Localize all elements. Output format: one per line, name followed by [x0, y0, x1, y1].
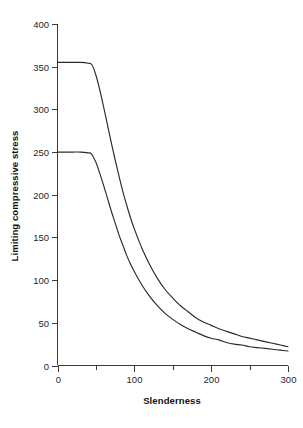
- y-tick-label: 250: [33, 147, 49, 158]
- data-curve-lower: [58, 152, 289, 351]
- y-axis-title: Limiting compressive stress: [9, 130, 20, 261]
- x-tick-label: 0: [56, 374, 61, 385]
- x-tick-label: 300: [281, 374, 297, 385]
- x-tick-label: 100: [127, 374, 143, 385]
- chart-figure: 050100150200250300350400 0100200300 Slen…: [0, 0, 303, 428]
- data-series-group: [58, 62, 289, 351]
- y-axis-ticks: [52, 25, 58, 367]
- y-tick-label: 100: [33, 275, 49, 286]
- y-tick-label: 350: [33, 62, 49, 73]
- y-tick-label: 0: [44, 361, 49, 372]
- y-axis-tick-labels: 050100150200250300350400: [33, 19, 49, 372]
- y-tick-label: 400: [33, 19, 49, 30]
- x-axis-minor-ticks: [97, 366, 251, 370]
- y-tick-label: 150: [33, 232, 49, 243]
- y-tick-label: 50: [38, 318, 49, 329]
- x-axis-title: Slenderness: [143, 395, 201, 406]
- y-tick-label: 300: [33, 104, 49, 115]
- x-axis-tick-labels: 0100200300: [56, 374, 297, 385]
- data-curve-upper: [58, 62, 289, 346]
- line-chart: 050100150200250300350400 0100200300 Slen…: [0, 0, 303, 428]
- x-tick-label: 200: [204, 374, 220, 385]
- y-tick-label: 200: [33, 190, 49, 201]
